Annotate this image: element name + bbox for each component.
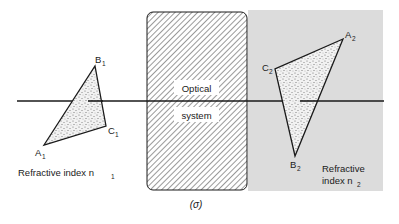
vertex-c2-sub: 2: [269, 68, 273, 75]
vertex-b2: B: [290, 159, 296, 170]
n1-subscript: 1: [111, 173, 115, 180]
vertex-c1: C: [108, 125, 115, 136]
optical-label: Optical: [182, 83, 212, 94]
refractive-label-line1: Refractive: [322, 163, 365, 174]
system-label: system: [181, 110, 211, 121]
vertex-b2-sub: 2: [297, 165, 301, 172]
figure-caption: (σ): [190, 199, 203, 210]
vertex-b1: B: [95, 54, 101, 65]
refractive-index-n1-label: Refractive index n: [18, 167, 94, 178]
vertex-a1-sub: 1: [42, 153, 46, 160]
vertex-a2-sub: 2: [352, 35, 356, 42]
vertex-a2: A: [345, 29, 352, 40]
vertex-c2: C: [262, 62, 269, 73]
refractive-label-line2: index n: [322, 175, 353, 186]
n2-subscript: 2: [357, 181, 361, 188]
optical-imaging-diagram: Optical system A 1 B 1 C 1 Refractive in…: [0, 0, 399, 224]
vertex-b1-sub: 1: [102, 60, 106, 67]
vertex-a1: A: [35, 147, 42, 158]
vertex-c1-sub: 1: [115, 131, 119, 138]
object-triangle: [44, 66, 106, 145]
